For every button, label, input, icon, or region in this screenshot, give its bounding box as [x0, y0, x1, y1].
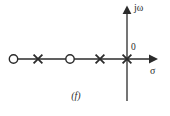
zero-marker-2: [66, 55, 74, 63]
zero-marker-1: [9, 55, 17, 63]
sigma-axis-label: σ: [150, 66, 155, 76]
origin-label: 0: [131, 43, 136, 53]
figure-caption: (f): [0, 91, 152, 101]
jomega-axis-label: jω: [134, 3, 143, 13]
sigma-axis-arrowhead: [149, 55, 158, 64]
jomega-axis-arrowhead: [123, 6, 132, 15]
pole-zero-figure: jω σ 0 (f): [0, 0, 170, 116]
